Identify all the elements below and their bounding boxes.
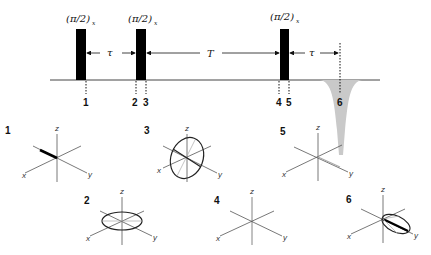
svg-text:(π/2): (π/2) (270, 11, 294, 22)
pulse-2 (136, 29, 146, 80)
svg-text:x: x (346, 232, 352, 241)
echo-vector (383, 219, 408, 231)
svg-text:y: y (282, 233, 288, 242)
svg-text:5: 5 (280, 126, 286, 137)
panel-6: 6 z x y (346, 185, 419, 243)
interval-T: T (147, 48, 279, 59)
pulse-label-2: (π/2) x (128, 13, 158, 26)
interval-tau-2: τ (290, 47, 338, 58)
timepoint-3: 3 (143, 97, 149, 108)
svg-text:y: y (152, 233, 158, 242)
svg-text:z: z (54, 124, 59, 133)
svg-text:z: z (119, 187, 124, 196)
pulse-1 (76, 29, 86, 80)
interval-tau-1: τ (87, 47, 135, 58)
svg-text:T: T (207, 48, 215, 59)
magnetization-vector (40, 150, 57, 158)
pulse-label-1: (π/2) x (66, 13, 96, 26)
svg-text:z: z (249, 187, 254, 196)
svg-text:x: x (85, 234, 91, 243)
timepoint-5: 5 (286, 97, 292, 108)
svg-text:y: y (87, 170, 93, 179)
panel-4: 4 z x y (214, 187, 288, 245)
svg-text:(π/2): (π/2) (128, 13, 152, 24)
svg-text:z: z (315, 123, 320, 132)
panel-2: 2 z x y (84, 187, 158, 245)
svg-text:x: x (156, 166, 162, 175)
timepoint-4: 4 (276, 97, 282, 108)
svg-text:z: z (380, 185, 385, 194)
svg-text:4: 4 (214, 195, 220, 206)
panel-3: 3 z x y (144, 124, 223, 183)
svg-text:y: y (217, 170, 223, 179)
pulse-label-3: (π/2) x (270, 11, 300, 24)
svg-text:(π/2): (π/2) (66, 13, 90, 24)
echo-signal (320, 80, 362, 155)
svg-text:y: y (413, 231, 419, 240)
svg-text:x: x (92, 19, 96, 26)
panel-1: 1 z x y (5, 124, 93, 182)
svg-text:x: x (215, 234, 221, 243)
svg-text:x: x (154, 19, 158, 26)
pulse-sequence-diagram: (π/2) x (π/2) x (π/2) x τ T τ 1 2 3 4 5 … (0, 0, 431, 255)
svg-text:2: 2 (84, 195, 90, 206)
svg-text:1: 1 (5, 125, 11, 136)
timepoint-2: 2 (132, 97, 138, 108)
svg-text:τ: τ (309, 47, 315, 58)
timepoint-6: 6 (337, 97, 343, 108)
timepoint-1: 1 (83, 97, 89, 108)
svg-text:x: x (296, 17, 300, 24)
svg-text:6: 6 (346, 194, 352, 205)
svg-text:z: z (184, 124, 189, 133)
svg-text:y: y (348, 169, 354, 178)
svg-text:x: x (281, 170, 287, 179)
pulse-3 (280, 29, 289, 80)
svg-text:τ: τ (107, 47, 113, 58)
svg-text:3: 3 (144, 125, 150, 136)
